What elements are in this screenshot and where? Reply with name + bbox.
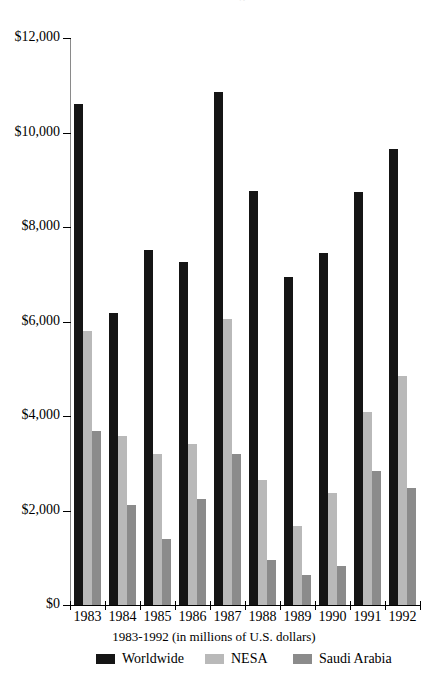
legend-label: NESA: [231, 651, 268, 667]
legend-entry-worldwide[interactable]: Worldwide: [96, 650, 184, 668]
bar-saudi-arabia-1984: [127, 505, 136, 605]
bar-saudi-arabia-1992: [407, 488, 416, 605]
x-axis-label-1983: 1983: [70, 609, 105, 625]
x-axis-label-1986: 1986: [175, 609, 210, 625]
bar-saudi-arabia-1991: [372, 471, 381, 605]
bar-worldwide-1990: [319, 253, 328, 605]
bar-group: [284, 38, 311, 605]
x-axis-caption: 1983-1992 (in millions of U.S. dollars): [0, 629, 428, 644]
x-axis-label-1992: 1992: [385, 609, 420, 625]
bar-saudi-arabia-1986: [197, 499, 206, 605]
x-axis-label-1988: 1988: [245, 609, 280, 625]
bar-nesa-1990: [328, 493, 337, 605]
bar-saudi-arabia-1987: [232, 454, 241, 605]
bar-worldwide-1984: [109, 313, 118, 605]
bar-group: [249, 38, 276, 605]
bar-nesa-1984: [118, 436, 127, 605]
bar-nesa-1991: [363, 412, 372, 605]
x-axis-label-1985: 1985: [140, 609, 175, 625]
legend-entry-nesa[interactable]: NESA: [205, 650, 268, 668]
x-axis-label-1990: 1990: [315, 609, 350, 625]
y-axis-tick: [63, 511, 71, 512]
chart-legend: WorldwideNESASaudi Arabia: [0, 650, 428, 670]
bar-nesa-1988: [258, 480, 267, 605]
bar-nesa-1983: [83, 331, 92, 605]
chart-title: U.S. Arms Transfer Agreements: [0, 0, 428, 1]
y-axis-tick-label: $2,000: [0, 503, 60, 517]
y-axis-tick: [63, 133, 71, 134]
x-axis-label-1989: 1989: [280, 609, 315, 625]
bar-group: [144, 38, 171, 605]
bar-saudi-arabia-1985: [162, 539, 171, 605]
y-axis-tick-label: $4,000: [0, 408, 60, 422]
bar-nesa-1985: [153, 454, 162, 605]
plot-area: [71, 38, 419, 605]
bar-worldwide-1989: [284, 277, 293, 605]
bar-worldwide-1985: [144, 250, 153, 605]
bar-group: [319, 38, 346, 605]
bar-worldwide-1983: [74, 104, 83, 605]
bar-chart: U.S. Arms Transfer Agreements $12,000$10…: [0, 0, 428, 688]
bar-group: [179, 38, 206, 605]
y-axis-tick: [63, 38, 71, 39]
y-axis-tick-label: $8,000: [0, 219, 60, 233]
legend-swatch-icon: [293, 654, 312, 664]
legend-swatch-icon: [205, 654, 224, 664]
legend-label: Saudi Arabia: [319, 651, 392, 667]
legend-swatch-icon: [96, 654, 115, 664]
bar-group: [214, 38, 241, 605]
bar-nesa-1987: [223, 319, 232, 605]
y-axis-tick: [63, 322, 71, 323]
bar-nesa-1989: [293, 526, 302, 605]
bar-saudi-arabia-1990: [337, 566, 346, 605]
y-axis-tick-label: $12,000: [0, 30, 60, 44]
x-axis-tick: [420, 601, 421, 610]
x-axis-label-1987: 1987: [210, 609, 245, 625]
legend-label: Worldwide: [122, 651, 184, 667]
x-axis-label-1984: 1984: [105, 609, 140, 625]
bar-group: [389, 38, 416, 605]
y-axis-tick-label: $6,000: [0, 314, 60, 328]
bar-worldwide-1987: [214, 92, 223, 605]
y-axis-tick: [63, 227, 71, 228]
y-axis-tick-label: $0: [0, 597, 60, 611]
bar-worldwide-1986: [179, 262, 188, 605]
bar-saudi-arabia-1983: [92, 431, 101, 605]
bar-group: [354, 38, 381, 605]
bar-nesa-1986: [188, 444, 197, 605]
bar-saudi-arabia-1988: [267, 560, 276, 605]
y-axis-tick: [63, 416, 71, 417]
bar-saudi-arabia-1989: [302, 575, 311, 605]
legend-entry-saudi-arabia[interactable]: Saudi Arabia: [293, 650, 392, 668]
bar-worldwide-1991: [354, 192, 363, 605]
bar-group: [109, 38, 136, 605]
x-axis-label-1991: 1991: [350, 609, 385, 625]
bar-group: [74, 38, 101, 605]
bar-worldwide-1992: [389, 149, 398, 605]
y-axis-tick-label: $10,000: [0, 125, 60, 139]
bar-worldwide-1988: [249, 191, 258, 605]
bar-nesa-1992: [398, 376, 407, 605]
